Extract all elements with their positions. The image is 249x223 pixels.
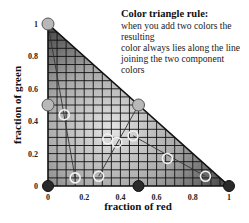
x-tick-label: 1 xyxy=(227,193,231,202)
rule-line-2: color always lies along the line xyxy=(121,42,249,53)
dark-color-point xyxy=(224,181,235,192)
y-tick-label: 0.6 xyxy=(28,85,38,94)
gray-color-point xyxy=(42,18,54,30)
y-tick-label: 1 xyxy=(34,20,38,29)
x-axis-label: fraction of red xyxy=(104,200,172,212)
gray-color-point xyxy=(133,99,145,111)
rule-line-3: joining the two component colors xyxy=(121,53,249,75)
y-ticks: 00.20.40.60.81 xyxy=(28,20,38,191)
y-tick-label: 0.4 xyxy=(28,117,38,126)
x-tick-label: 0.8 xyxy=(188,193,198,202)
y-tick-label: 0 xyxy=(34,182,38,191)
y-tick-label: 0.2 xyxy=(28,150,38,159)
rule-title: Color triangle rule: xyxy=(121,8,249,20)
y-tick-label: 0.8 xyxy=(28,52,38,61)
rule-annotation: Color triangle rule: when you add two co… xyxy=(121,8,249,75)
y-axis-label: fraction of green xyxy=(11,66,23,144)
dark-color-point xyxy=(43,181,54,192)
dark-color-point xyxy=(133,181,144,192)
x-tick-label: 0 xyxy=(46,193,50,202)
x-tick-label: 0.2 xyxy=(79,193,89,202)
rule-line-1: when you add two colors the resulting xyxy=(121,20,249,42)
gray-color-point xyxy=(42,99,54,111)
